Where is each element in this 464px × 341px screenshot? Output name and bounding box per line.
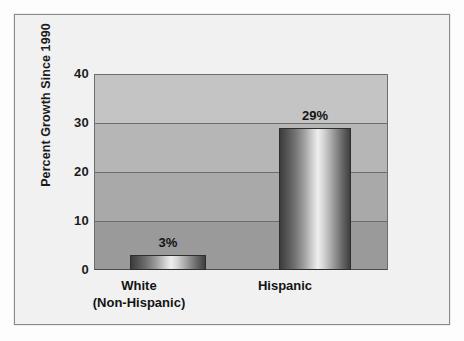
figure-frame: Percent Growth Since 1990 40 30 20 10 0 … — [14, 14, 450, 325]
plot-area: 3% 29% — [94, 74, 388, 270]
category-label-line1: White — [69, 277, 209, 294]
category-label-line1: Hispanic — [215, 277, 355, 294]
y-tick-label-40: 40 — [55, 66, 89, 81]
bar-hispanic[interactable] — [279, 128, 351, 270]
category-label-line2: (Non-Hispanic) — [69, 294, 209, 311]
figure-page: Percent Growth Since 1990 40 30 20 10 0 … — [0, 0, 464, 341]
y-tick-label-30: 30 — [55, 115, 89, 130]
bar-white-non-hispanic[interactable] — [130, 255, 206, 270]
y-tick-label-0: 0 — [55, 262, 89, 277]
category-label-hispanic: Hispanic — [215, 277, 355, 294]
y-axis-tick-labels: 40 30 20 10 0 — [51, 74, 89, 270]
y-tick-label-20: 20 — [55, 164, 89, 179]
data-label-white-non-hispanic: 3% — [130, 235, 206, 250]
y-tick-label-10: 10 — [55, 213, 89, 228]
data-label-hispanic: 29% — [279, 108, 351, 123]
category-label-white-non-hispanic: White (Non-Hispanic) — [69, 277, 209, 311]
